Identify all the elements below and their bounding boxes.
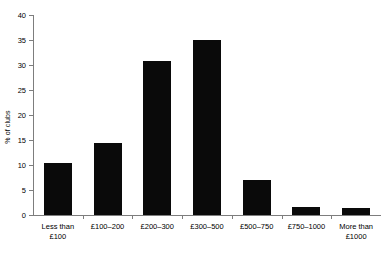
bar	[243, 180, 271, 215]
y-axis-tick: 15	[29, 140, 33, 141]
y-axis-tick: 5	[29, 190, 33, 191]
y-axis-tick-label: 15	[18, 137, 26, 145]
x-axis-line	[33, 215, 381, 216]
y-axis-tick-label: 35	[18, 37, 26, 45]
y-axis-tick-label: 0	[22, 212, 26, 220]
y-axis-title: % of clubs	[0, 92, 14, 162]
y-axis-tick: 25	[29, 90, 33, 91]
bar	[292, 207, 320, 216]
x-axis-tick	[232, 215, 233, 219]
y-axis-line	[33, 15, 34, 215]
x-axis-category-label: £200–300	[132, 222, 182, 232]
x-axis-category-label: £750–1000	[282, 222, 332, 232]
bar	[342, 208, 370, 215]
x-axis-category-label: £300–500	[182, 222, 232, 232]
y-axis-tick-label: 5	[22, 187, 26, 195]
bar	[143, 61, 171, 215]
y-axis-tick: 30	[29, 65, 33, 66]
y-axis-tick: 10	[29, 165, 33, 166]
y-axis-title-label: % of clubs	[4, 110, 11, 143]
x-axis-tick	[331, 215, 332, 219]
x-axis-category-label: £100–200	[83, 222, 133, 232]
y-axis-tick: 0	[29, 215, 33, 216]
y-axis-tick-label: 40	[18, 12, 26, 20]
bar	[94, 143, 122, 216]
x-axis-tick	[282, 215, 283, 219]
x-axis-tick	[83, 215, 84, 219]
bar	[44, 163, 72, 215]
y-axis-tick-label: 30	[18, 62, 26, 70]
y-axis-tick: 40	[29, 15, 33, 16]
y-axis-tick: 20	[29, 115, 33, 116]
bar-chart: % of clubs 0510152025303540 Less than £1…	[0, 0, 387, 259]
plot-area: 0510152025303540	[33, 15, 381, 215]
y-axis-tick-label: 25	[18, 87, 26, 95]
bar	[193, 40, 221, 216]
y-axis-tick-label: 10	[18, 162, 26, 170]
y-axis-tick-label: 20	[18, 112, 26, 120]
x-axis-category-label: More than £1000	[331, 222, 381, 242]
x-axis-category-label: £500–750	[232, 222, 282, 232]
x-axis-tick	[182, 215, 183, 219]
x-axis-category-label: Less than £100	[33, 222, 83, 242]
x-axis-tick	[132, 215, 133, 219]
y-axis-tick: 35	[29, 40, 33, 41]
